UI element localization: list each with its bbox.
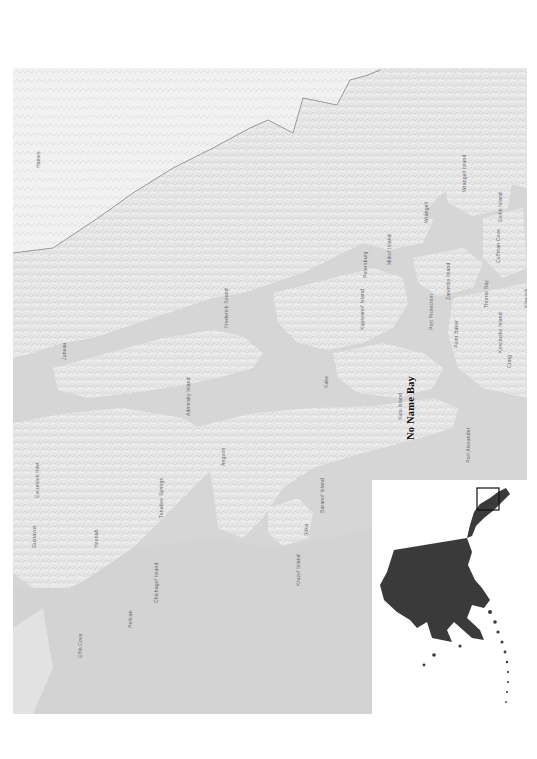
no-name-bay-label: No Name Bay [405,376,416,440]
place-label-port-alexander: Port Alexander [465,427,471,463]
place-label-hoonah: Hoonah [93,529,99,548]
place-label-klawock: Klawock [523,288,527,308]
place-label-thorne-bay: Thorne Bay [483,280,489,308]
place-label-wrangell-island: Wrangell Island [461,155,467,192]
place-label-craig: Craig [506,355,512,368]
place-label-haines: Haines [35,151,41,168]
place-label-elfin-cove: Elfin Cove [77,633,83,658]
place-label-frederick-sound: Frederick Sound [223,288,229,328]
place-label-kuiu-island: Kuiu Island [397,393,403,420]
place-label-tenakee-springs: Tenakee Springs [158,478,164,518]
place-label-kosciusko-island: Kosciusko Island [497,312,503,353]
place-label-excursion-inlet: Excursion Inlet [34,462,40,498]
place-label-kupreanof-island: Kupreanof Island [359,289,365,330]
place-label-baranof-island: Baranof Island [319,478,325,513]
place-label-angoon: Angoon [220,448,226,466]
place-label-zarembo-island: Zarembo Island [445,262,451,300]
place-label-wrangell: Wrangell [423,202,429,223]
place-label-port-protection: Port Protection [428,294,434,330]
place-label-kruzof-island: Kruzof Island [295,554,301,586]
place-label-mitkof-island: Mitkof Island [386,234,392,265]
place-label-etolin-island: Etolin Island [497,192,503,222]
alaska-silhouette [372,480,527,714]
place-label-kake: Kake [323,376,329,388]
inset-map-alaska [372,480,527,714]
place-label-admiralty-island: Admiralty Island [185,377,191,416]
place-label-point-baker: Point Baker [453,320,459,348]
place-label-chichagof-island: Chichagof Island [153,563,159,603]
place-label-coffman-cove: Coffman Cove [495,229,501,263]
place-label-petersburg: Petersburg [362,252,368,278]
place-label-juneau: Juneau [61,342,67,360]
place-label-pelican: Pelican [127,610,133,628]
place-label-sitka: Sitka [303,524,309,536]
place-label-gustavus: Gustavus [31,525,37,548]
